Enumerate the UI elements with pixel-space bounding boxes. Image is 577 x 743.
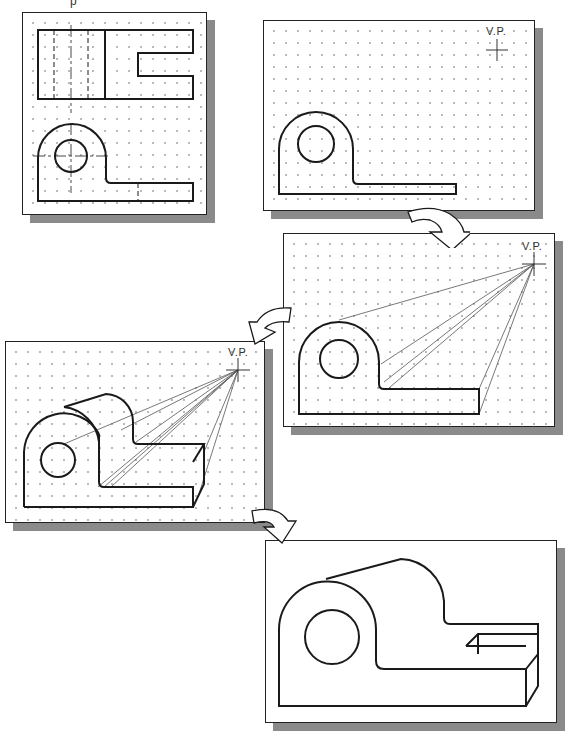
front-view-vp-frame: V.P. <box>263 20 535 211</box>
front-view-drawing <box>264 21 536 212</box>
completed-perspective-frame <box>265 540 557 723</box>
vp-crosshair <box>486 39 508 61</box>
curved-arrow-icon <box>248 503 308 547</box>
curved-arrow-icon <box>233 300 295 348</box>
completed-drawing <box>266 541 558 724</box>
vp-label: V.P. <box>522 240 542 252</box>
projection-drawing <box>284 234 556 428</box>
multiview-drawing <box>23 13 208 216</box>
depth-drawing <box>6 342 266 524</box>
caption-fragment: p <box>70 0 77 8</box>
depth-frame: V.P. <box>5 341 265 523</box>
projection-lines-frame: V.P. <box>283 233 555 427</box>
curved-arrow-icon <box>400 196 470 248</box>
vp-label: V.P. <box>486 25 506 37</box>
multiview-frame <box>22 12 207 215</box>
